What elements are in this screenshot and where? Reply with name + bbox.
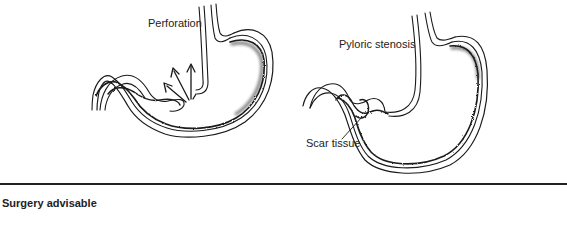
- stomach-illustrations: [0, 0, 567, 180]
- scar-tissue-label: Scar tissue: [306, 137, 360, 149]
- perforation-arrows-icon: [164, 64, 196, 102]
- section-heading: Surgery advisable: [2, 197, 97, 209]
- section-divider: [0, 183, 567, 185]
- stomach-pyloric-stenosis-icon: [303, 12, 487, 173]
- figure: Perforation Pyloric stenosis Scar tissue: [0, 0, 567, 180]
- perforation-label: Perforation: [148, 17, 202, 29]
- pyloric-stenosis-label: Pyloric stenosis: [339, 38, 415, 50]
